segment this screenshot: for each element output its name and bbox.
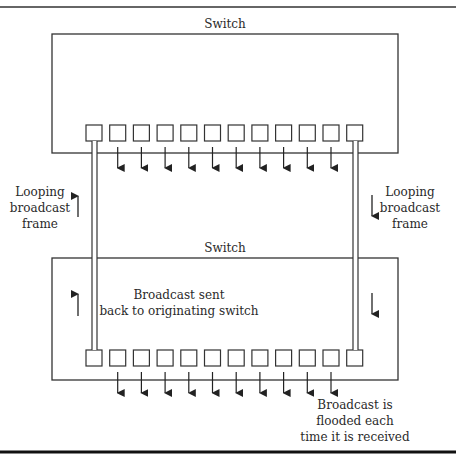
switch-port: [299, 125, 315, 141]
switch-port: [323, 350, 339, 366]
bottom-annotation-line: flooded each: [316, 414, 394, 428]
right-loop-cable: [353, 141, 358, 350]
middle-annotation-line: Broadcast sent: [133, 288, 224, 302]
switch-port: [323, 125, 339, 141]
right-annotation-line: Looping: [385, 185, 435, 199]
switch-port: [276, 125, 292, 141]
top-switch: [52, 34, 398, 153]
switch-port: [157, 125, 173, 141]
switch-port: [181, 350, 197, 366]
left-annotation-line: frame: [22, 217, 58, 231]
right-annotation-line: broadcast: [380, 201, 441, 215]
switch-port: [86, 350, 102, 366]
switch-port: [347, 125, 363, 141]
switch-port: [299, 350, 315, 366]
switch-port: [133, 125, 149, 141]
switch-port: [133, 350, 149, 366]
switch-port: [347, 350, 363, 366]
bottom-annotation-line: Broadcast is: [317, 398, 392, 412]
switch-port: [252, 125, 268, 141]
switch-port: [181, 125, 197, 141]
left-loop-annotation: Looping broadcast frame: [10, 185, 71, 231]
switch-port: [205, 125, 221, 141]
right-annotation-line: frame: [392, 217, 428, 231]
switch-port: [110, 125, 126, 141]
switch-port: [276, 350, 292, 366]
left-loop-cable: [92, 141, 97, 350]
left-annotation-line: broadcast: [10, 201, 71, 215]
bottom-annotation-line: time it is received: [300, 430, 410, 444]
switch-port: [228, 350, 244, 366]
switch-port: [228, 125, 244, 141]
switch-port: [110, 350, 126, 366]
switch-port: [252, 350, 268, 366]
bottom-switch-label: Switch: [204, 241, 246, 255]
top-switch-label: Switch: [204, 17, 246, 31]
right-loop-annotation: Looping broadcast frame: [380, 185, 441, 231]
middle-annotation-line: back to originating switch: [99, 304, 258, 318]
switch-port: [157, 350, 173, 366]
switch-port: [205, 350, 221, 366]
bottom-switch: [52, 258, 398, 380]
left-annotation-line: Looping: [15, 185, 65, 199]
broadcast-storm-diagram: Switch Switch Looping broadcast frame Lo…: [0, 0, 456, 457]
bottom-annotation: Broadcast is flooded each time it is rec…: [300, 398, 410, 444]
switch-port: [86, 125, 102, 141]
